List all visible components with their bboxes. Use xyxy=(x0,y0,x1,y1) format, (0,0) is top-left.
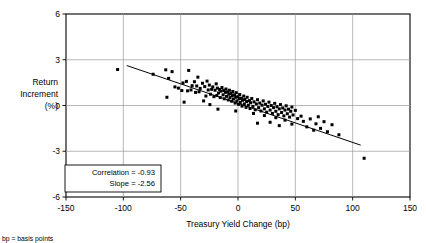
data-point xyxy=(185,80,188,83)
data-point xyxy=(194,91,197,94)
data-point xyxy=(323,120,326,123)
data-point xyxy=(282,114,285,117)
data-point xyxy=(219,90,222,93)
data-point xyxy=(257,106,260,109)
data-point xyxy=(252,112,255,115)
data-point xyxy=(177,87,180,90)
data-point xyxy=(269,121,272,124)
data-point xyxy=(171,70,174,73)
data-point xyxy=(245,100,248,103)
chart-svg: -150-100-50050100150 630-3-6 Return Incr… xyxy=(0,0,426,243)
data-point xyxy=(284,109,287,112)
correlation-label: Correlation = -0.93 xyxy=(92,168,155,177)
data-point xyxy=(211,85,214,88)
scatter-chart-figure: -150-100-50050100150 630-3-6 Return Incr… xyxy=(0,0,426,243)
data-point xyxy=(256,122,259,125)
x-tick-label: 50 xyxy=(291,203,301,213)
data-point xyxy=(164,68,167,71)
data-point xyxy=(288,116,291,119)
data-point xyxy=(228,89,231,92)
data-point xyxy=(363,157,366,160)
data-point xyxy=(249,101,252,104)
y-tick-label: -3 xyxy=(52,146,60,156)
y-tick-label: -6 xyxy=(52,192,60,202)
data-point xyxy=(242,95,245,98)
data-point xyxy=(235,91,238,94)
data-point xyxy=(203,85,206,88)
data-point xyxy=(277,113,280,116)
data-point xyxy=(314,122,317,125)
footnote-text: bp = basis points xyxy=(2,235,54,243)
x-tick-label: -150 xyxy=(57,203,74,213)
y-axis-title-line-3: (%) xyxy=(45,101,58,111)
data-point xyxy=(285,104,288,107)
data-point xyxy=(220,86,223,89)
data-point xyxy=(272,106,275,109)
data-points xyxy=(116,68,366,160)
data-point xyxy=(263,107,266,110)
stats-annotation: Correlation = -0.93 Slope = -2.56 xyxy=(65,165,161,192)
y-axis-title-line-2: Increment xyxy=(20,89,58,99)
slope-label: Slope = -2.56 xyxy=(110,179,155,188)
data-point xyxy=(224,88,227,91)
x-axis-title: Treasury Yield Change (bp) xyxy=(186,219,290,229)
data-point xyxy=(183,101,186,104)
data-point xyxy=(189,88,192,91)
data-point xyxy=(251,105,254,108)
data-point xyxy=(292,113,295,116)
x-tick-label: 150 xyxy=(403,203,417,213)
x-tick-labels: -150-100-50050100150 xyxy=(57,203,417,213)
data-point xyxy=(296,117,299,120)
data-point xyxy=(186,89,189,92)
data-point xyxy=(191,84,194,87)
data-point xyxy=(180,89,183,92)
data-point xyxy=(255,102,258,105)
data-point xyxy=(279,103,282,106)
data-point xyxy=(337,133,340,136)
data-point xyxy=(326,130,329,133)
data-point xyxy=(116,68,119,71)
data-point xyxy=(286,112,289,115)
x-tick-label: -50 xyxy=(175,203,188,213)
y-tick-label: 6 xyxy=(55,9,60,19)
data-point xyxy=(267,101,270,104)
data-point xyxy=(204,95,207,98)
y-tick-label: 3 xyxy=(55,55,60,65)
data-point xyxy=(317,115,320,118)
data-point xyxy=(280,111,283,114)
data-point xyxy=(216,108,219,111)
data-point xyxy=(195,84,198,87)
data-point xyxy=(262,99,265,102)
x-tick-label: 0 xyxy=(236,203,241,213)
data-point xyxy=(269,109,272,112)
data-point xyxy=(278,107,281,110)
data-point xyxy=(331,123,334,126)
data-point xyxy=(199,87,202,90)
data-point xyxy=(238,93,241,96)
data-point xyxy=(246,96,249,99)
x-tick-label: -100 xyxy=(115,203,132,213)
data-point xyxy=(289,110,292,113)
data-point xyxy=(256,98,259,101)
data-point xyxy=(215,82,218,85)
y-axis-title: Return Increment (%) xyxy=(20,77,58,111)
data-point xyxy=(208,84,211,87)
y-axis-title-line-1: Return xyxy=(32,77,58,87)
data-point xyxy=(273,102,276,105)
data-point xyxy=(290,106,293,109)
data-point xyxy=(201,82,204,85)
data-point xyxy=(266,105,269,108)
data-point xyxy=(187,69,190,72)
data-point xyxy=(302,120,305,123)
data-point xyxy=(196,76,199,79)
data-point xyxy=(173,85,176,88)
data-point xyxy=(300,115,303,118)
data-point xyxy=(206,80,209,83)
data-point xyxy=(309,117,312,120)
data-point xyxy=(208,103,211,106)
data-point xyxy=(278,124,281,127)
data-point xyxy=(319,127,322,130)
x-tick-label: 100 xyxy=(346,203,360,213)
data-point xyxy=(207,88,210,91)
data-point xyxy=(202,99,205,102)
